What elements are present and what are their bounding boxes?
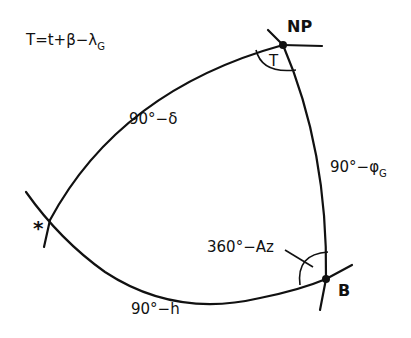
angle-label-T: T (269, 54, 278, 69)
side-label-pole-star: 90°−δ (129, 112, 177, 127)
formula-subscript: G (97, 41, 105, 52)
vertex-label-observer: B (338, 283, 350, 299)
side-label-pole-observer-sub: G (379, 168, 387, 179)
side-pole-star (50, 45, 283, 220)
pole-vertex-dot (279, 41, 287, 49)
side-label-star-observer: 90°−h (131, 302, 180, 317)
spherical-triangle-diagram: T=t+β−λG NP T 90°−δ 90°−φG * 360°−Az B 9… (0, 0, 411, 338)
star-cross-line-upper (44, 220, 50, 247)
side-star-observer (26, 192, 326, 304)
vertex-label-pole: NP (287, 19, 312, 35)
side-label-pole-observer-main: 90°−φ (330, 158, 379, 176)
vertex-label-star: * (33, 218, 43, 238)
formula-label: T=t+β−λG (26, 33, 105, 48)
side-pole-observer (283, 45, 326, 279)
formula-main: T=t+β−λ (26, 31, 97, 49)
angle-label-azimuth: 360°−Az (207, 240, 274, 255)
side-label-pole-observer: 90°−φG (330, 160, 387, 175)
observer-extension-down (320, 279, 326, 310)
observer-vertex-dot (322, 275, 330, 283)
pole-extension-right (283, 45, 322, 46)
observer-extension-right (326, 265, 352, 279)
